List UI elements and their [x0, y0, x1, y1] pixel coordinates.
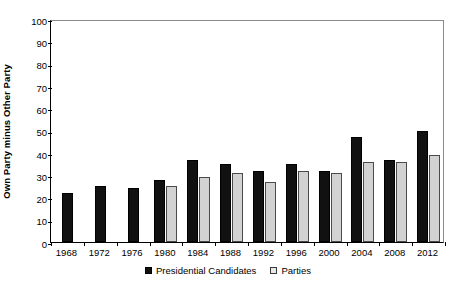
bar-1984-parties	[199, 177, 210, 242]
x-axis-tick-mark	[150, 242, 151, 246]
x-axis-label-2012: 2012	[417, 247, 438, 259]
x-axis-label-1980: 1980	[154, 247, 175, 259]
x-axis-tick-mark	[347, 242, 348, 246]
y-axis-tick-100: 100	[31, 12, 51, 30]
bar-group-1968	[51, 21, 84, 242]
bar-1992-candidates	[253, 171, 264, 242]
x-axis-tick-mark	[412, 242, 413, 246]
y-axis-tick-70: 70	[36, 79, 51, 97]
x-axis-label-1992: 1992	[253, 247, 274, 259]
bar-2000-candidates	[319, 171, 330, 242]
x-axis-tick-mark	[379, 242, 380, 246]
x-axis-tick-mark	[281, 242, 282, 246]
bar-1992-parties	[265, 182, 276, 242]
bar-1980-candidates	[154, 180, 165, 242]
bar-group-2012	[412, 21, 445, 242]
x-axis-tick-mark	[445, 242, 446, 246]
bar-2004-parties	[363, 162, 374, 242]
bar-1988-parties	[232, 173, 243, 242]
x-axis-label-1972: 1972	[89, 247, 110, 259]
legend-swatch-icon	[145, 267, 152, 274]
bar-group-1976	[117, 21, 150, 242]
x-axis-label-2000: 2000	[319, 247, 340, 259]
x-axis-tick-mark	[248, 242, 249, 246]
legend-swatch-icon	[270, 267, 277, 274]
bar-2012-parties	[429, 155, 440, 242]
bar-group-1972	[84, 21, 117, 242]
y-axis-title: Own Party minus Other Party	[0, 20, 14, 243]
legend-item-parties: Parties	[270, 265, 311, 276]
x-axis-tick-mark	[84, 242, 85, 246]
bar-2004-candidates	[351, 137, 362, 242]
bar-group-1980	[150, 21, 183, 242]
bar-group-1996	[281, 21, 314, 242]
y-axis-tick-30: 30	[36, 168, 51, 186]
bar-2008-parties	[396, 162, 407, 242]
x-axis-label-1968: 1968	[56, 247, 77, 259]
x-axis-tick-mark	[314, 242, 315, 246]
bar-1984-candidates	[187, 160, 198, 243]
bar-2008-candidates	[384, 160, 395, 243]
bar-1988-candidates	[220, 164, 231, 242]
x-axis-tick-mark	[51, 242, 52, 246]
bar-2000-parties	[331, 173, 342, 242]
y-axis-tick-0: 0	[42, 235, 51, 253]
bar-group-2000	[314, 21, 347, 242]
bar-1996-parties	[298, 171, 309, 242]
legend-item-presidential-candidates: Presidential Candidates	[145, 265, 256, 276]
y-axis-tick-10: 10	[36, 213, 51, 231]
x-axis-tick-mark	[182, 242, 183, 246]
bar-1976-candidates	[128, 188, 139, 242]
bar-group-1992	[248, 21, 281, 242]
bar-1972-candidates	[95, 186, 106, 242]
x-axis-label-1984: 1984	[187, 247, 208, 259]
legend-item-label: Presidential Candidates	[156, 265, 256, 276]
x-axis-tick-mark	[215, 242, 216, 246]
x-axis-label-1976: 1976	[122, 247, 143, 259]
legend-item-label: Parties	[281, 265, 311, 276]
bar-group-2004	[347, 21, 380, 242]
x-axis-label-1996: 1996	[286, 247, 307, 259]
bar-group-1988	[215, 21, 248, 242]
bar-2012-candidates	[417, 131, 428, 243]
y-axis-tick-60: 60	[36, 101, 51, 119]
bar-group-1984	[182, 21, 215, 242]
y-axis-tick-20: 20	[36, 190, 51, 208]
bar-1968-candidates	[62, 193, 73, 242]
y-axis-tick-50: 50	[36, 124, 51, 142]
chart-legend: Presidential CandidatesParties	[0, 265, 456, 276]
y-axis-tick-40: 40	[36, 146, 51, 164]
x-axis-label-2008: 2008	[384, 247, 405, 259]
x-axis-label-1988: 1988	[220, 247, 241, 259]
plot-area: 0102030405060708090100	[50, 20, 444, 243]
bar-chart: Own Party minus Other Party 010203040506…	[0, 0, 456, 288]
bar-group-2008	[379, 21, 412, 242]
x-axis-tick-mark	[117, 242, 118, 246]
bar-1996-candidates	[286, 164, 297, 242]
bar-1980-parties	[166, 186, 177, 242]
y-axis-tick-80: 80	[36, 57, 51, 75]
y-axis-tick-90: 90	[36, 34, 51, 52]
x-axis-label-2004: 2004	[351, 247, 372, 259]
